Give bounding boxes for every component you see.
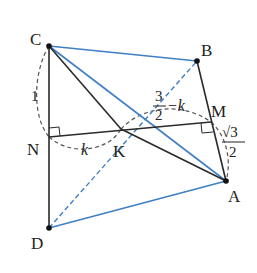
label-D: D	[31, 234, 43, 253]
segment-CA-blue	[49, 46, 226, 181]
point-A	[223, 178, 229, 184]
label-K: K	[113, 142, 126, 161]
segment-CB	[49, 46, 197, 61]
label-B: B	[201, 41, 212, 60]
right-angle-M	[201, 123, 213, 133]
length-NK: k	[81, 141, 89, 158]
label-N: N	[27, 140, 39, 159]
right-angle-N	[49, 127, 60, 136]
point-B	[194, 58, 200, 64]
point-D	[46, 225, 52, 231]
label-C: C	[30, 30, 41, 49]
length-CN: 1	[31, 88, 39, 104]
segment-DA	[49, 181, 226, 228]
length-MA-numerator: √3	[222, 124, 238, 140]
geometry-figure: C B M A N K D 1 k 3 2 −k √3 2	[0, 0, 257, 273]
point-C	[46, 43, 52, 49]
length-KM-denominator: 2	[155, 107, 163, 123]
length-MA-denominator: 2	[229, 144, 237, 160]
label-M: M	[211, 102, 226, 121]
segment-NM	[49, 122, 211, 137]
length-KM-numerator: 3	[155, 88, 163, 104]
segment-CK	[49, 46, 121, 129]
segment-KA	[121, 129, 226, 181]
length-KM-tail: −k	[167, 97, 186, 114]
label-A: A	[228, 187, 241, 206]
